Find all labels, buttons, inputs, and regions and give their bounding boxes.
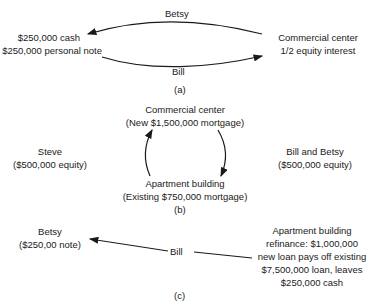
steve-equity: ($500,000 equity) [10,159,90,171]
refi-line4: $7,500,000 loan, leaves [256,264,368,276]
line-refinance-to-bill [194,252,252,258]
left-cash: $250,000 cash [18,32,80,44]
label-bill-a: Bill [172,66,185,78]
left-note: $250,000 personal note [2,45,102,57]
label-betsy-a: Betsy [165,8,189,20]
refi-line2: refinance: $1,000,000 [256,238,368,250]
steve: Steve [10,146,90,158]
betsy-c: Betsy [10,226,90,238]
caption-b: (b) [174,204,186,216]
caption-c: (c) [174,290,185,302]
commercial-center: Commercial center [110,104,260,116]
arrow-down-right [218,130,226,176]
right-equity: 1/2 equity interest [268,45,368,57]
bill-c: Bill [170,246,183,258]
refi-line3: new loan pays off existing [256,251,368,263]
refi-line1: Apartment building [256,225,368,237]
caption-a: (a) [174,84,186,96]
betsy-note: ($250,00 note) [10,239,90,251]
existing-mortgage: (Existing $750,000 mortgage) [110,191,260,203]
refi-line5: $250,000 cash [256,277,368,289]
arrow-bill-to-betsy [90,239,168,251]
new-mortgage: (New $1,500,000 mortgage) [110,117,260,129]
arrow-up-left [145,130,152,176]
bill-and-betsy: Bill and Betsy [270,146,360,158]
arrow-betsy [88,22,262,34]
right-commercial: Commercial center [268,32,368,44]
apartment-building: Apartment building [110,178,260,190]
bill-betsy-equity: ($500,000 equity) [270,159,360,171]
